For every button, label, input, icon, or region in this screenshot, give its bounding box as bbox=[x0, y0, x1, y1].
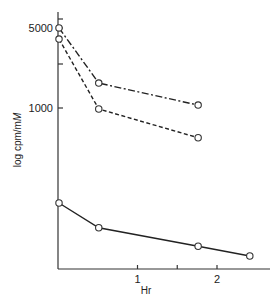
y-axis-title-italic: M bbox=[12, 112, 23, 121]
y-tick-label: 5000 bbox=[29, 22, 53, 34]
y-axis-title-prefix: log cpm/m bbox=[12, 121, 23, 167]
data-point-marker bbox=[56, 200, 62, 206]
series-line bbox=[59, 39, 198, 138]
data-point-marker bbox=[195, 243, 201, 249]
data-point-marker bbox=[195, 102, 201, 108]
data-point-marker bbox=[96, 80, 102, 86]
series-solid bbox=[56, 200, 253, 259]
data-point-marker bbox=[247, 253, 253, 259]
x-tick-label: 1 bbox=[134, 273, 140, 285]
y-tick-label: 1000 bbox=[29, 102, 53, 114]
x-axis-title: Hr bbox=[141, 285, 152, 296]
data-point-marker bbox=[56, 25, 62, 31]
data-point-marker bbox=[56, 36, 62, 42]
data-point-marker bbox=[96, 106, 102, 112]
data-point-marker bbox=[96, 225, 102, 231]
line-chart: 10005000 12 Hr log cpm/mM bbox=[0, 0, 280, 303]
series-dashed bbox=[56, 36, 202, 141]
y-axis-title: log cpm/mM bbox=[12, 112, 23, 167]
series-lines bbox=[56, 25, 253, 259]
data-point-marker bbox=[195, 135, 201, 141]
x-tick-label: 2 bbox=[214, 273, 220, 285]
y-axis: 10005000 bbox=[29, 12, 63, 269]
series-line bbox=[59, 203, 250, 256]
series-dashdot bbox=[56, 25, 202, 109]
x-axis: 12 bbox=[58, 265, 270, 285]
series-line bbox=[59, 28, 198, 105]
